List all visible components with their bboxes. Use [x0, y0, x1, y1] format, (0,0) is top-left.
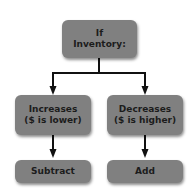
root-node-line-1: If [96, 28, 103, 39]
node-increases-line-2: ($ is lower) [24, 115, 81, 126]
node-increases: Increases ($ is lower) [15, 95, 91, 135]
root-node-line-2: Inventory: [73, 39, 126, 50]
node-subtract-label: Subtract [31, 166, 75, 177]
node-increases-line-1: Increases [29, 104, 78, 115]
arrow-to-decreases [142, 73, 149, 95]
node-subtract: Subtract [15, 160, 91, 183]
arrow-to-add [142, 135, 149, 158]
node-decreases: Decreases ($ is higher) [107, 95, 183, 135]
arrow-to-subtract [50, 135, 57, 158]
node-decreases-line-1: Decreases [119, 104, 171, 115]
node-add: Add [107, 160, 183, 183]
root-node-if-inventory: If Inventory: [62, 20, 137, 58]
arrow-to-increases [50, 73, 57, 95]
node-decreases-line-2: ($ is higher) [114, 115, 176, 126]
node-add-label: Add [135, 166, 155, 177]
